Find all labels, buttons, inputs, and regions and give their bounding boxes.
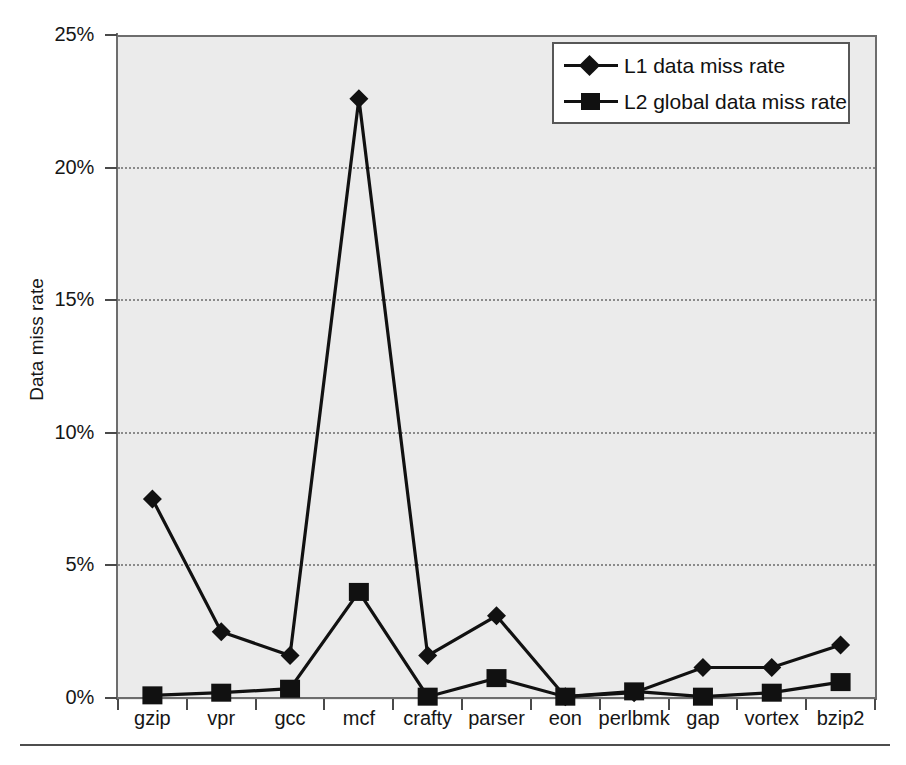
x-tick	[461, 699, 463, 710]
x-tick	[530, 699, 532, 710]
y-tick	[105, 299, 117, 301]
legend-label-l2: L2 global data miss rate	[624, 91, 847, 112]
plot-area	[118, 35, 877, 700]
x-tick	[736, 699, 738, 710]
x-tick-label-gzip: gzip	[134, 706, 171, 730]
y-tick	[105, 697, 117, 699]
x-axis-line	[116, 697, 877, 699]
y-axis-title: Data miss rate	[27, 240, 46, 440]
y-tick-label: 10%	[55, 422, 94, 442]
legend-square-marker-icon	[564, 89, 618, 113]
y-tick	[105, 564, 117, 566]
x-tick-label-gap: gap	[686, 706, 719, 730]
bottom-divider	[20, 744, 890, 746]
x-tick	[255, 699, 257, 710]
legend-label-l1: L1 data miss rate	[624, 55, 785, 76]
legend-item-l2: L2 global data miss rate	[564, 86, 847, 116]
y-tick	[105, 432, 117, 434]
x-tick-label-gcc: gcc	[274, 706, 305, 730]
x-tick	[874, 699, 876, 710]
gridline-5%	[118, 564, 875, 566]
x-tick	[117, 699, 119, 710]
gridline-15%	[118, 299, 875, 301]
x-tick-label-perlbmk: perlbmk	[599, 706, 670, 730]
x-tick-label-crafty: crafty	[403, 706, 452, 730]
x-tick-label-vortex: vortex	[745, 706, 799, 730]
y-tick	[105, 34, 117, 36]
y-tick-label: 25%	[55, 24, 94, 44]
chart-figure: 0%5%10%15%20%25% gzipvprgccmcfcraftypars…	[0, 0, 906, 765]
y-tick-label: 15%	[55, 289, 94, 309]
x-tick	[805, 699, 807, 710]
gridline-10%	[118, 432, 875, 434]
chart-legend: L1 data miss rate L2 global data miss ra…	[552, 42, 850, 124]
x-tick-label-vpr: vpr	[207, 706, 235, 730]
legend-diamond-marker-icon	[564, 53, 618, 77]
x-tick	[323, 699, 325, 710]
x-tick-label-eon: eon	[549, 706, 582, 730]
y-tick-label: 5%	[65, 554, 94, 574]
x-tick-label-mcf: mcf	[343, 706, 375, 730]
y-tick-label: 0%	[65, 687, 94, 707]
x-tick-label-bzip2: bzip2	[817, 706, 865, 730]
y-tick-label: 20%	[55, 157, 94, 177]
x-tick	[392, 699, 394, 710]
x-tick-label-parser: parser	[468, 706, 525, 730]
y-tick	[105, 167, 117, 169]
legend-item-l1: L1 data miss rate	[564, 50, 785, 80]
x-tick	[186, 699, 188, 710]
gridline-20%	[118, 167, 875, 169]
